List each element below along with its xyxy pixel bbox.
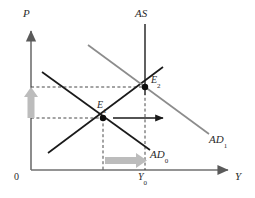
price-rise-arrow [24, 87, 38, 118]
ad0-curve [42, 72, 150, 150]
ad0-curve-label-text: AD [150, 148, 165, 160]
origin-label: 0 [14, 172, 19, 182]
ad1-curve-label-sub: 1 [224, 142, 228, 150]
ad0-curve-label: AD0 [150, 149, 168, 163]
output-rise-arrow [105, 153, 147, 168]
diagram-canvas [0, 0, 255, 198]
ad0-curve-label-sub: 0 [165, 157, 169, 165]
point-e2-label: E2 [151, 75, 161, 88]
ad1-curve-label-text: AD [209, 133, 224, 145]
annotation-arrows-group [24, 87, 163, 168]
ad-as-diagram: P Y 0 AS AD0 AD1 E1 E2 Y0 [0, 0, 255, 198]
point-e1-label: E1 [97, 100, 107, 113]
point-e2-label-sub: 2 [157, 82, 161, 90]
curves-group [42, 24, 209, 153]
y-axis-label: P [23, 8, 30, 19]
ad1-curve [88, 45, 209, 134]
point-e1-marker [100, 115, 106, 121]
x-axis-label: Y [235, 171, 241, 182]
x-tick-label-y0: Y0 [138, 172, 147, 185]
point-e1-label-sub: 1 [103, 107, 107, 115]
point-e2-marker [142, 84, 148, 90]
ad1-curve-label: AD1 [209, 134, 227, 148]
x-tick-label-y0-text: Y [138, 171, 144, 182]
as-curve-label: AS [135, 8, 147, 19]
axes-group [31, 31, 228, 170]
x-tick-label-y0-sub: 0 [144, 179, 148, 187]
equilibrium-points-group [100, 84, 148, 121]
